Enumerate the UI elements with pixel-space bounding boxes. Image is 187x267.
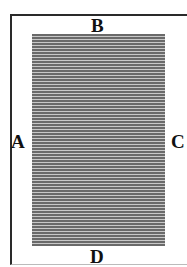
ruled-text-block (32, 34, 165, 246)
label-right: C (171, 132, 185, 151)
clipped-caption-fragment (0, 0, 187, 3)
label-top: B (91, 16, 104, 35)
label-bottom: D (90, 247, 104, 266)
label-left: A (11, 132, 25, 151)
